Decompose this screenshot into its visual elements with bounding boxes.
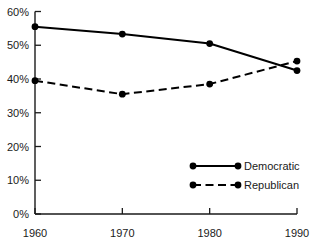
y-axis-tick-label: 10% (0, 174, 29, 186)
data-point-marker (119, 91, 126, 98)
y-axis-tick-label: 60% (0, 6, 29, 18)
series-line-democratic (35, 27, 297, 71)
x-axis-tick-label: 1960 (23, 227, 47, 239)
legend-swatch-marker (235, 182, 242, 189)
data-point-marker (119, 31, 126, 38)
data-point-marker (32, 23, 39, 30)
data-point-marker (294, 58, 301, 65)
y-axis-tick-label: 40% (0, 73, 29, 85)
x-axis-tick-label: 1990 (285, 227, 309, 239)
data-point-marker (206, 81, 213, 88)
data-point-marker (32, 77, 39, 84)
legend-swatch-marker (190, 163, 197, 170)
y-axis-ticks (35, 12, 41, 215)
x-axis-ticks (35, 208, 297, 214)
x-axis-tick-label: 1980 (197, 227, 221, 239)
legend-item-label-republican: Republican (244, 179, 299, 191)
y-axis-tick-label: 50% (0, 39, 29, 51)
data-point-marker (294, 67, 301, 74)
y-axis-tick-label: 30% (0, 107, 29, 119)
data-series-group (32, 23, 301, 97)
legend-swatch-marker (190, 182, 197, 189)
y-axis-tick-label: 20% (0, 141, 29, 153)
data-point-marker (206, 40, 213, 47)
legend-swatches (190, 163, 242, 189)
series-line-republican (35, 61, 297, 94)
x-axis-tick-label: 1970 (110, 227, 134, 239)
line-chart: 0%10%20%30%40%50%60% 1960197019801990 De… (0, 0, 316, 244)
legend-item-label-democratic: Democratic (244, 160, 300, 172)
legend-swatch-marker (235, 163, 242, 170)
y-axis-tick-label: 0% (0, 208, 29, 220)
chart-plot-area (0, 0, 316, 244)
